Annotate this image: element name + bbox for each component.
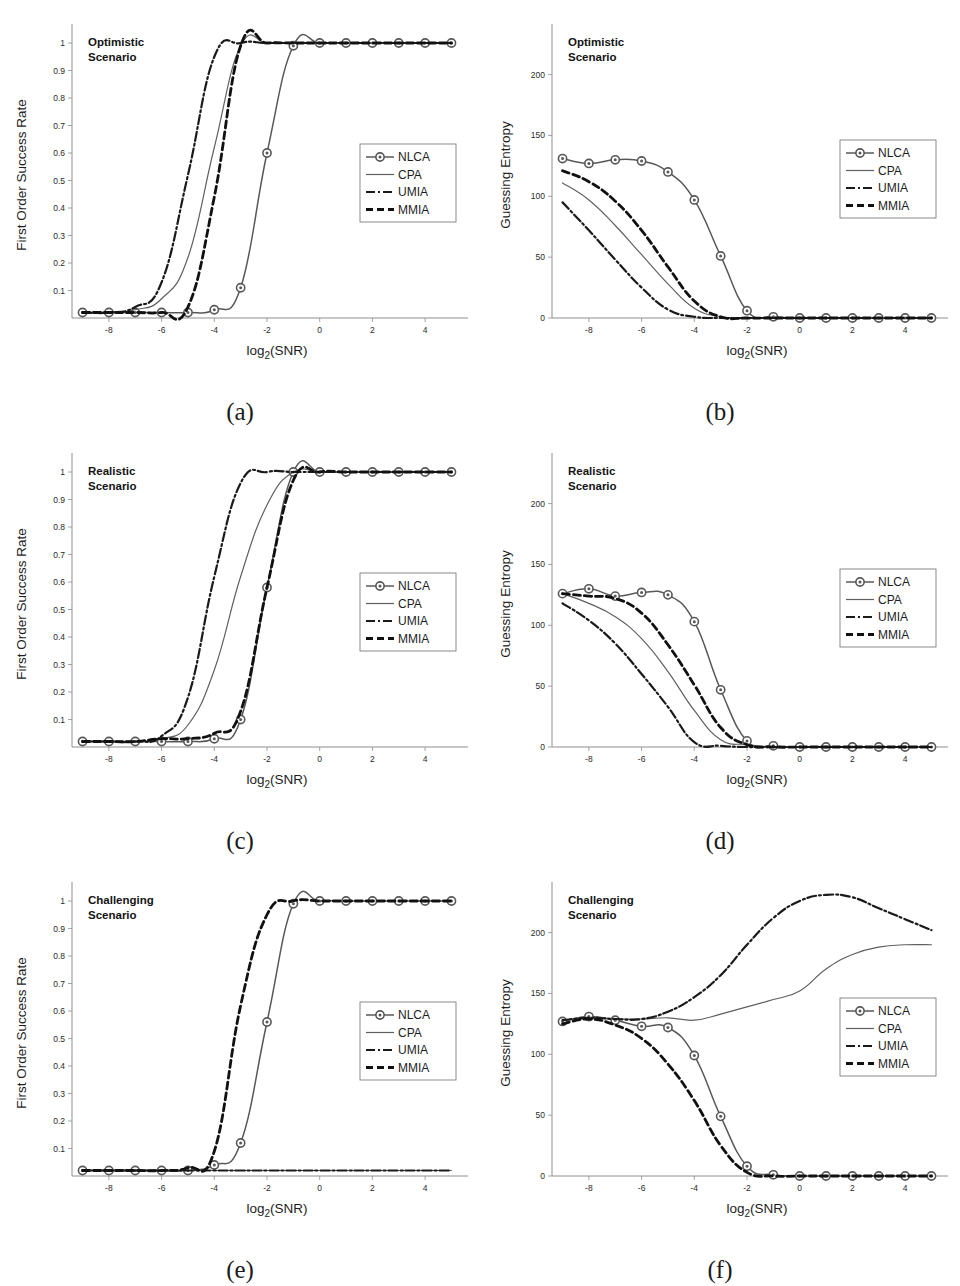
y-tick-label: 150 [531,988,545,998]
x-ticks-group: -8-6-4-2024 [585,747,908,764]
y-axis-title: Guessing Entropy [498,121,513,229]
y-axis-title: First Order Success Rate [14,957,29,1109]
data-point-center [719,688,722,691]
y-tick-label: 0 [540,313,545,323]
legend-label-cpa: CPA [398,168,422,182]
x-axis-title: log2(SNR) [246,772,307,790]
y-ticks-group: 050100150200 [531,70,552,323]
y-tick-label: 100 [531,191,545,201]
x-tick-label: 4 [903,754,908,764]
legend-label-cpa: CPA [398,597,422,611]
y-tick-label: 100 [531,1049,545,1059]
x-tick-label: -6 [158,325,166,335]
legend-label-nlca: NLCA [878,575,910,589]
legend-label-umia: UMIA [398,1043,428,1057]
scenario-title-line2: Scenario [88,51,137,63]
y-tick-label: 0.8 [53,93,65,103]
y-tick-label: 1 [60,38,65,48]
scenario-title: RealisticScenario [568,465,617,492]
x-tick-label: 2 [850,1183,855,1193]
legend: NLCACPAUMIAMMIA [840,569,936,647]
data-point-center [693,198,696,201]
x-axis-title: log2(SNR) [726,1201,787,1219]
x-axis-title: log2(SNR) [246,343,307,361]
x-axis-title-snr: (SNR) [750,772,788,787]
x-axis-title-log: log [246,343,264,358]
y-ticks-group: 0.10.20.30.40.50.60.70.80.91 [53,467,72,725]
chart-panel-d: -8-6-4-2024050100150200RealisticScenario… [480,429,960,857]
x-axis-title-snr: (SNR) [270,1201,308,1216]
scenario-title: OptimisticScenario [88,36,145,63]
scenario-title-line2: Scenario [568,480,617,492]
subplot-caption-a: (a) [0,398,480,426]
data-point-center [239,1142,242,1145]
x-ticks-group: -8-6-4-2024 [105,747,428,764]
y-tick-label: 0.5 [53,605,65,615]
data-point-center [666,170,669,173]
subplot-caption-c: (c) [0,827,480,855]
x-tick-label: -4 [211,1183,219,1193]
chart-panel-b: -8-6-4-2024050100150200OptimisticScenari… [480,0,960,428]
y-ticks-group: 0.10.20.30.40.50.60.70.80.91 [53,896,72,1154]
y-tick-label: 0.7 [53,121,65,131]
data-point-center [561,157,564,160]
data-point-center [719,1115,722,1118]
x-tick-label: -2 [743,325,751,335]
legend-label-umia: UMIA [878,610,908,624]
data-point-center [587,162,590,165]
legend: NLCACPAUMIAMMIA [840,998,936,1076]
data-point-center [666,1026,669,1029]
svg-text:log2(SNR): log2(SNR) [726,343,787,361]
scenario-title-line1: Realistic [88,465,136,477]
data-point-center [746,309,749,312]
y-axis-title: First Order Success Rate [14,528,29,680]
x-axis-title: log2(SNR) [726,343,787,361]
x-tick-label: -6 [638,1183,646,1193]
legend-label-cpa: CPA [398,1026,422,1040]
data-point-center [266,152,269,155]
x-tick-label: -4 [691,325,699,335]
legend-label-mmia: MMIA [878,628,909,642]
data-point-center [266,1021,269,1024]
subplot-caption-d: (d) [480,827,960,855]
y-tick-label: 0.9 [53,495,65,505]
x-axis-title-log: log [726,772,744,787]
x-tick-label: 0 [317,325,322,335]
x-axis-title: log2(SNR) [726,772,787,790]
y-tick-label: 200 [531,928,545,938]
legend-label-nlca: NLCA [398,1008,430,1022]
x-tick-label: 2 [850,754,855,764]
legend-label-umia: UMIA [878,1039,908,1053]
legend-marker-center [379,585,382,588]
data-point-center [186,740,189,743]
y-tick-label: 0.6 [53,148,65,158]
y-tick-label: 0.8 [53,522,65,532]
x-tick-label: 0 [797,754,802,764]
figure-root: -8-6-4-20240.10.20.30.40.50.60.70.80.91O… [0,0,960,1286]
legend-label-mmia: MMIA [878,199,909,213]
x-tick-label: -4 [211,325,219,335]
x-axis-title-snr: (SNR) [270,343,308,358]
x-tick-label: -2 [263,1183,271,1193]
y-tick-label: 0.2 [53,1116,65,1126]
x-tick-label: 0 [317,754,322,764]
data-point-center [640,591,643,594]
data-point-center [640,160,643,163]
y-tick-label: 0.7 [53,979,65,989]
data-point-center [746,739,749,742]
legend: NLCACPAUMIAMMIA [360,144,456,222]
legend-label-nlca: NLCA [398,579,430,593]
y-tick-label: 0.4 [53,203,65,213]
x-tick-label: 4 [903,325,908,335]
y-tick-label: 0.5 [53,1034,65,1044]
legend-label-mmia: MMIA [878,1057,909,1071]
x-tick-label: 0 [317,1183,322,1193]
legend-label-mmia: MMIA [398,632,429,646]
x-axis-title-log: log [246,1201,264,1216]
x-axis-title-snr: (SNR) [750,343,788,358]
scenario-title: ChallengingScenario [568,894,634,921]
subplot-caption-e: (e) [0,1256,480,1284]
x-tick-label: 4 [423,1183,428,1193]
y-axis-title: First Order Success Rate [14,99,29,251]
legend-label-cpa: CPA [878,164,902,178]
